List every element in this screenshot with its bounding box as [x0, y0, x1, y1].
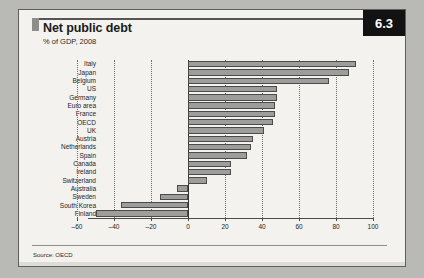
bar-france	[188, 111, 275, 117]
x-tick-mark	[336, 218, 337, 221]
gridline	[77, 60, 78, 218]
bar-italy	[188, 61, 356, 67]
x-axis-line	[88, 218, 373, 219]
x-tick-label: 80	[332, 223, 339, 230]
bar-spain	[188, 152, 247, 158]
bar-germany	[188, 94, 277, 100]
x-tick-mark	[299, 218, 300, 221]
x-tick-label: 20	[221, 223, 228, 230]
gridline	[151, 60, 152, 218]
bar-us	[188, 86, 277, 92]
bar-netherlands	[188, 144, 251, 150]
bar-austria	[188, 136, 253, 142]
bar-euro-area	[188, 102, 275, 108]
bar-south-korea	[121, 202, 188, 208]
gridline	[373, 60, 374, 218]
x-tick-mark	[373, 218, 374, 221]
x-tick-mark	[151, 218, 152, 221]
gridline	[336, 60, 337, 218]
x-tick-label: 40	[258, 223, 265, 230]
bar-oecd	[188, 119, 273, 125]
x-tick-mark	[114, 218, 115, 221]
bar-australia	[177, 185, 188, 191]
bar-sweden	[160, 194, 188, 200]
bar-ireland	[188, 169, 231, 175]
bar-belgium	[188, 78, 329, 84]
x-tick-label: –20	[146, 223, 157, 230]
x-tick-mark	[77, 218, 78, 221]
bar-finland	[96, 210, 189, 216]
bars-layer: –60–40–20020406080100	[19, 10, 405, 266]
x-tick-label: –60	[72, 223, 83, 230]
x-tick-label: 60	[295, 223, 302, 230]
bar-uk	[188, 127, 264, 133]
bar-canada	[188, 161, 231, 167]
x-tick-label: 0	[186, 223, 190, 230]
chart-plot-area: ItalyJapanBelgiumUSGermanyEuro areaFranc…	[19, 10, 405, 266]
x-tick-mark	[262, 218, 263, 221]
gridline	[114, 60, 115, 218]
x-tick-label: –40	[109, 223, 120, 230]
bar-switzerland	[188, 177, 207, 183]
bar-japan	[188, 69, 349, 75]
x-tick-label: 100	[368, 223, 379, 230]
source-note: Source: OECD	[33, 252, 73, 258]
source-rule	[32, 245, 387, 246]
x-tick-mark	[188, 218, 189, 221]
figure-card: Net public debt % of GDP, 2008 6.3 Italy…	[18, 9, 406, 267]
x-tick-mark	[225, 218, 226, 221]
